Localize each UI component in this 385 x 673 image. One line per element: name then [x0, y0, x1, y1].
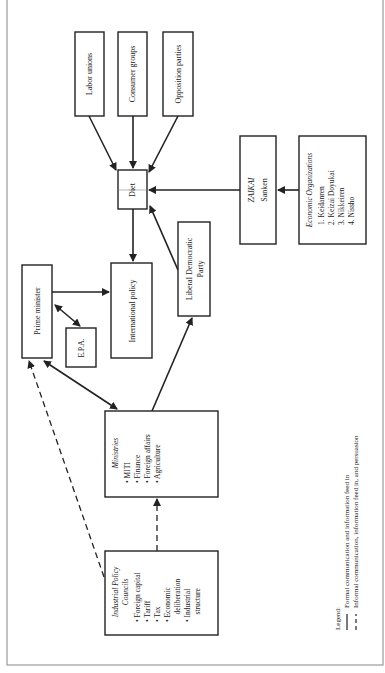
edge-labor-diet [89, 116, 116, 170]
svg-text:• Foreign capital: • Foreign capital [133, 572, 142, 622]
svg-text:2. Keizai Doyukai: 2. Keizai Doyukai [327, 170, 336, 225]
svg-text:Industrial Policy: Industrial Policy [111, 566, 120, 618]
svg-text:• MITI: • MITI [123, 462, 132, 483]
legend: Legend: Formal communication and informa… [334, 435, 360, 630]
svg-text:International policy: International policy [128, 280, 137, 343]
svg-text:1. Keidanren: 1. Keidanren [317, 186, 326, 225]
svg-text:• Economic: • Economic [163, 586, 172, 622]
svg-text:4. Nissho: 4. Nissho [347, 196, 356, 225]
svg-text:E.P.A.: E.P.A. [77, 338, 86, 357]
svg-text:• Industrial: • Industrial [183, 589, 192, 622]
svg-text:ZAIKAI: ZAIKAI [247, 177, 256, 202]
node-opposition-parties: Opposition parties [163, 32, 193, 116]
node-industrial-policy-councils: Industrial Policy Councils • Foreign cap… [105, 551, 218, 635]
svg-text:Informal communication, inform: Informal communication, information feed… [352, 435, 360, 608]
svg-text:• Finance: • Finance [133, 454, 142, 483]
svg-text:3. Nikkeiren: 3. Nikkeiren [337, 187, 346, 225]
svg-text:Legend:: Legend: [334, 607, 342, 630]
svg-text:Sanken: Sanken [260, 178, 269, 202]
edge-opposition-diet [149, 116, 178, 172]
svg-text:Economic Organizations: Economic Organizations [305, 153, 314, 229]
svg-text:• Agriculture: • Agriculture [153, 444, 162, 483]
svg-text:• Foreign affairs: • Foreign affairs [143, 434, 152, 483]
node-consumer-groups: Consumer groups [118, 32, 147, 116]
svg-text:Consumer groups: Consumer groups [128, 46, 137, 103]
svg-text:Formal communication and infor: Formal communication and information fee… [343, 474, 351, 608]
svg-text:Diet: Diet [128, 182, 137, 197]
svg-text:Opposition parties: Opposition parties [174, 45, 183, 104]
node-labor-unions: Labor unions [75, 32, 104, 116]
node-epa: E.P.A. [66, 328, 96, 367]
svg-text:Prime minister: Prime minister [33, 287, 42, 335]
node-ministries: Ministries • MITI • Finance • Foreign af… [105, 411, 218, 497]
svg-text:Councils: Councils [121, 579, 130, 606]
node-economic-organizations: Economic Organizations 1. Keidanren 2. K… [299, 136, 366, 244]
edge-ldp-diet [150, 206, 178, 270]
policy-diagram: Labor unions Consumer groups Opposition … [0, 0, 385, 673]
svg-text:Liberal Democratic: Liberal Democratic [185, 237, 194, 300]
svg-text:Party: Party [196, 261, 205, 278]
node-international-policy: International policy [111, 263, 152, 358]
node-zaikai: ZAIKAI Sanken [240, 136, 276, 244]
svg-text:Labor unions: Labor unions [85, 53, 94, 95]
edge-pm-epa [55, 305, 80, 326]
svg-text:• Tax: • Tax [153, 606, 162, 622]
svg-text:deliberation: deliberation [173, 578, 182, 622]
node-diet: Diet [118, 170, 147, 209]
edge-pm-ministries [44, 361, 117, 409]
edge-ministries-ldp [152, 318, 192, 411]
node-prime-minister: Prime minister [22, 265, 52, 358]
svg-text:Ministries: Ministries [111, 438, 120, 469]
svg-text:• Tariff: • Tariff [143, 600, 152, 622]
svg-text:structure: structure [193, 588, 202, 622]
node-liberal-democratic-party: Liberal Democratic Party [178, 222, 210, 316]
